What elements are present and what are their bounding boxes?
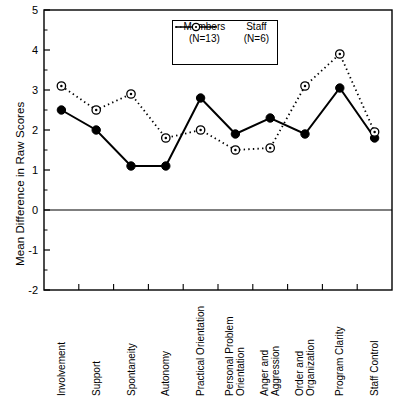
legend-series-2-name: Staff [236,21,277,33]
series-line-staff [61,54,374,150]
y-tick-label: -1 [20,245,38,255]
data-point-center-staff-9 [373,131,376,134]
data-point-center-staff-0 [60,85,63,88]
chart-figure: Mean Difference in Raw Scores 543210-1-2… [0,0,403,401]
x-tick-label-6: Anger andAggression [260,346,281,396]
data-point-members-3 [162,162,170,170]
y-tick-label: 1 [20,165,38,175]
data-point-members-0 [57,106,65,114]
series-line-members [61,88,374,166]
x-tick-label-1: Support [92,361,103,396]
x-tick-label-9: Staff Control [370,341,381,396]
legend: Members Staff (N=13) (N=6) [172,20,278,65]
data-point-members-2 [127,162,135,170]
data-point-center-staff-4 [199,129,202,132]
y-tick-label: 5 [20,5,38,15]
x-tick-label-8: Program Clarity [335,327,346,396]
data-point-center-staff-2 [130,93,133,96]
y-tick-label: -2 [20,285,38,295]
data-point-center-staff-1 [95,109,98,112]
x-tick-label-7: Order andOrganization [295,339,316,396]
legend-series-1-n: (N=13) [173,33,236,45]
y-tick-label: 0 [20,205,38,215]
x-tick-label-3: Autonomy [161,351,172,396]
x-tick-label-4: Practical Orientation [196,306,207,396]
data-point-center-staff-8 [339,53,342,56]
dotted-line-open-circle-icon [173,21,219,33]
data-point-members-6 [266,114,274,122]
data-point-center-staff-5 [234,149,237,152]
data-point-center-staff-7 [304,85,307,88]
y-tick-label: 4 [20,45,38,55]
legend-series-2-n: (N=6) [236,33,277,45]
x-tick-label-0: Involvement [57,342,68,396]
data-point-members-8 [336,84,344,92]
data-point-center-staff-3 [165,137,168,140]
data-point-members-1 [92,126,100,134]
data-point-members-5 [231,130,239,138]
y-tick-label: 3 [20,85,38,95]
x-tick-label-5: Personal ProblemOrientation [225,317,246,396]
data-point-members-4 [196,94,204,102]
data-point-center-staff-6 [269,147,272,150]
x-tick-label-2: Spontaneity [127,343,138,396]
data-point-members-7 [301,130,309,138]
y-tick-label: 2 [20,125,38,135]
